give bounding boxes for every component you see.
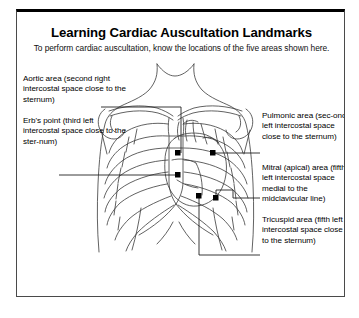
anterior-chest-illustration bbox=[17, 12, 345, 297]
label-aortic-area: Aortic area (second right intercostal sp… bbox=[23, 74, 127, 105]
label-tricuspid-area: Tricuspid area (fifth left intercostal s… bbox=[262, 215, 345, 246]
clavicle-right bbox=[178, 106, 242, 120]
midclavicular-line-left bbox=[132, 208, 141, 250]
erbs-marker bbox=[175, 172, 181, 178]
costal-margin bbox=[139, 204, 213, 244]
label-mitral-area: Mitral (apical) area (fifth left interco… bbox=[262, 163, 345, 205]
tricuspid-marker bbox=[196, 193, 202, 199]
label-pulmonic-area: Pulmonic area (sec-ond left intercostal … bbox=[262, 111, 345, 142]
leader-tricuspid bbox=[199, 196, 260, 255]
aortic-marker bbox=[175, 150, 181, 156]
ribcage-right bbox=[178, 123, 248, 251]
auscultation-card: Learning Cardiac Auscultation Landmarks … bbox=[16, 9, 345, 297]
label-erbs-point: Erb's point (third left intercostal spac… bbox=[23, 116, 127, 147]
heart-silhouette bbox=[165, 120, 227, 206]
mitral-marker bbox=[213, 195, 219, 201]
pulmonic-marker bbox=[210, 150, 216, 156]
